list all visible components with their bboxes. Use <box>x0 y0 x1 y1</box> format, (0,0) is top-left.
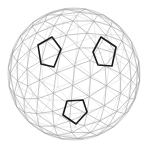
front-wire-edge <box>61 35 67 53</box>
front-wire-edge <box>27 69 28 86</box>
back-wire-edge <box>33 82 43 95</box>
front-wire-edge <box>98 48 105 66</box>
front-wire-edge <box>115 53 120 73</box>
front-wire-edge <box>124 33 133 50</box>
back-wire-edge <box>24 115 35 127</box>
front-wire-edge <box>125 99 135 114</box>
back-wire-edge <box>23 34 31 36</box>
front-wire-edge <box>90 77 106 85</box>
back-wire-edge <box>131 87 136 94</box>
back-wire-edge <box>42 100 50 113</box>
front-wire-edge <box>87 21 94 33</box>
back-wire-edge <box>111 107 125 116</box>
back-wire-edge <box>120 49 123 62</box>
back-wire-edge <box>15 98 24 115</box>
front-wire-edge <box>120 73 121 93</box>
back-wire-edge <box>43 82 58 87</box>
front-wire-edge <box>94 21 106 35</box>
front-wire-edge <box>60 12 79 15</box>
back-wire-edge <box>68 133 87 136</box>
front-wire-edge <box>39 73 56 80</box>
front-wire-edge <box>89 85 106 96</box>
front-wire-edge <box>94 15 98 21</box>
front-wire-edge <box>70 121 72 132</box>
front-wire-edge <box>32 15 47 26</box>
front-wire-edge <box>79 33 86 48</box>
front-wire-edge <box>73 21 87 33</box>
front-wire-edge <box>41 41 46 61</box>
front-wire-edge <box>32 26 37 33</box>
front-wire-edge <box>100 121 108 126</box>
front-wire-edge <box>73 85 90 96</box>
back-wire-edge <box>28 75 43 82</box>
front-wire-edge <box>57 132 71 135</box>
front-wire-edge <box>106 85 120 93</box>
geodesic-sphere-diagram <box>0 0 148 149</box>
front-wire-edge <box>114 114 124 127</box>
front-wire-edge <box>23 33 37 42</box>
front-wire-edge <box>87 106 104 114</box>
front-wire-edge <box>106 26 111 35</box>
front-wire-edge <box>38 80 40 98</box>
front-wire-edge <box>23 41 30 50</box>
back-wire-edge <box>61 34 77 42</box>
back-wire-edge <box>101 122 116 133</box>
front-wire-edge <box>24 99 36 114</box>
front-wire-edge <box>129 61 131 80</box>
front-wire-edge <box>112 21 123 33</box>
front-wire-edge <box>53 111 54 126</box>
front-wire-edge <box>104 85 106 105</box>
back-wire-edge <box>92 68 109 75</box>
back-wire-edge <box>92 55 95 75</box>
front-wire-edge <box>66 33 86 35</box>
back-wire-edge <box>87 87 106 95</box>
back-wire-edge <box>77 37 95 43</box>
front-wire-edge <box>106 73 120 85</box>
front-wire-edge <box>12 54 17 61</box>
front-wire-edge <box>24 86 27 99</box>
back-wire-edge <box>48 27 61 34</box>
back-wire-edge <box>94 22 95 37</box>
front-wire-edge <box>117 111 125 113</box>
back-wire-edge <box>77 27 78 42</box>
front-wire-edge <box>53 73 56 93</box>
front-wire-edge <box>90 66 105 77</box>
front-wire-edge <box>97 126 114 135</box>
front-wire-edge <box>20 26 32 36</box>
back-wire-edge <box>50 100 61 115</box>
front-wire-edge <box>105 66 120 73</box>
front-wire-edge <box>53 111 70 121</box>
front-wire-edge <box>12 36 20 54</box>
front-wire-edge <box>74 48 79 66</box>
front-wire-edge <box>87 114 100 121</box>
front-wire-edge <box>89 97 104 106</box>
back-wire-edge <box>95 37 96 55</box>
back-wire-edge <box>50 127 54 133</box>
front-wire-edge <box>34 15 47 22</box>
back-wire-edge <box>111 34 123 49</box>
front-wire-edge <box>27 61 42 69</box>
front-wire-edge <box>53 93 54 111</box>
front-wire-edge <box>38 99 53 112</box>
back-wire-edge <box>92 75 107 87</box>
front-wire-edge <box>61 53 75 66</box>
back-wire-edge <box>79 27 96 37</box>
front-wire-edge <box>87 33 106 35</box>
front-wire-edge <box>53 106 71 112</box>
front-wire-edge <box>28 86 38 99</box>
back-wire-edge <box>54 115 61 127</box>
